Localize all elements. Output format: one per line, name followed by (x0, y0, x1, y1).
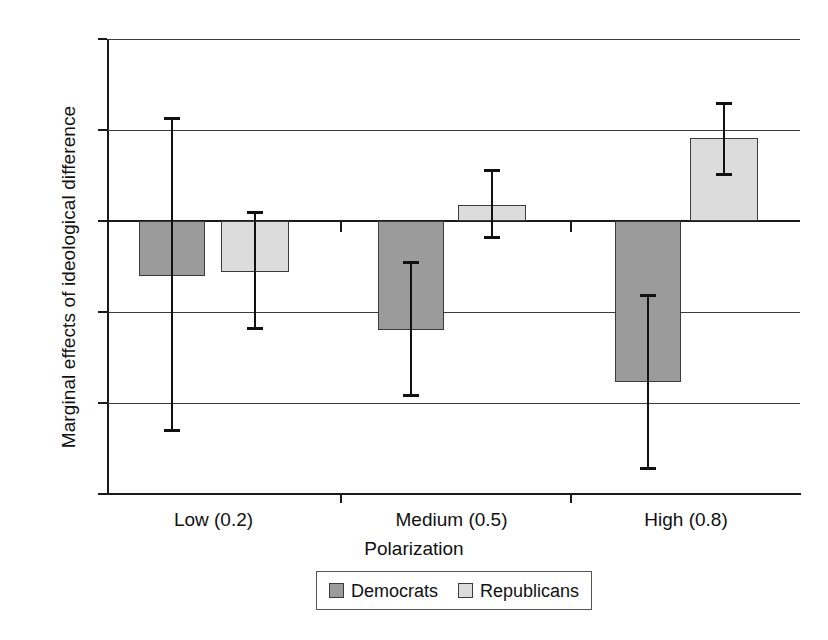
chart-figure: Marginal effects of ideological differen… (0, 0, 828, 640)
error-bar-line (254, 211, 256, 330)
legend-swatch-democrats (329, 583, 344, 598)
x-axis-line (107, 493, 801, 495)
error-bar-cap (484, 169, 500, 172)
plot-area: 10.50−0.5−1−1.5 Low (0.2)Medium (0.5)Hig… (108, 39, 800, 494)
error-bar-cap (164, 429, 180, 432)
x-tick-mark (340, 494, 342, 503)
x-tick-mark (570, 494, 572, 503)
error-bar-cap (716, 102, 732, 105)
error-bar-cap (403, 261, 419, 264)
gridline (108, 403, 800, 404)
x-axis-title: Polarization (0, 538, 828, 560)
error-bar-cap (484, 236, 500, 239)
y-tick-mark (98, 129, 107, 131)
gridline (108, 39, 800, 40)
error-bar-cap (247, 211, 263, 214)
x-axis-group-separator-tick (340, 222, 342, 232)
chart-legend: Democrats Republicans (316, 571, 592, 610)
legend-item-republicans: Republicans (458, 582, 579, 600)
y-axis-title: Marginal effects of ideological differen… (58, 62, 80, 492)
error-bar-cap (716, 173, 732, 176)
error-bar-line (723, 102, 725, 177)
y-tick-mark (98, 493, 107, 495)
x-tick-label: High (0.8) (586, 509, 786, 531)
y-tick-mark (98, 220, 107, 222)
error-bar-line (410, 261, 412, 397)
y-tick-mark (98, 402, 107, 404)
y-axis-line (107, 39, 109, 494)
y-tick-mark (98, 311, 107, 313)
x-tick-label: Low (0.2) (114, 509, 314, 531)
error-bar-line (647, 294, 649, 471)
error-bar-cap (164, 117, 180, 120)
gridline (108, 312, 800, 313)
error-bar-line (491, 169, 493, 239)
error-bar-cap (640, 294, 656, 297)
x-tick-label: Medium (0.5) (352, 509, 552, 531)
error-bar-cap (640, 467, 656, 470)
y-tick-mark (98, 38, 107, 40)
legend-label-republicans: Republicans (480, 582, 579, 600)
x-axis-group-separator-tick (570, 222, 572, 232)
error-bar-cap (247, 327, 263, 330)
legend-item-democrats: Democrats (329, 582, 438, 600)
legend-label-democrats: Democrats (351, 582, 438, 600)
error-bar-line (171, 117, 173, 432)
gridline (108, 130, 800, 131)
error-bar-cap (403, 394, 419, 397)
legend-swatch-republicans (458, 583, 473, 598)
